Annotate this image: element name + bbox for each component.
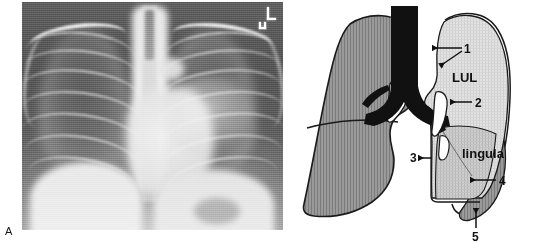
label-4: 4 <box>499 174 506 188</box>
label-3: 3 <box>410 151 417 165</box>
chest-xray-image <box>22 2 283 230</box>
label-5: 5 <box>472 230 479 243</box>
figure-container: A <box>0 0 552 243</box>
lung-anatomy-diagram: 1 LUL 2 3 lingula 4 5 <box>290 0 552 243</box>
label-lingula: lingula <box>462 146 505 161</box>
trachea <box>391 6 418 90</box>
label-1: 1 <box>464 42 471 56</box>
panel-a-radiograph: A <box>0 0 290 243</box>
label-2: 2 <box>475 96 482 110</box>
panel-a-letter: A <box>5 225 12 237</box>
film-grain-overlay <box>22 2 283 230</box>
label-lul: LUL <box>452 70 477 85</box>
panel-b-diagram: 1 LUL 2 3 lingula 4 5 B <box>290 0 552 243</box>
